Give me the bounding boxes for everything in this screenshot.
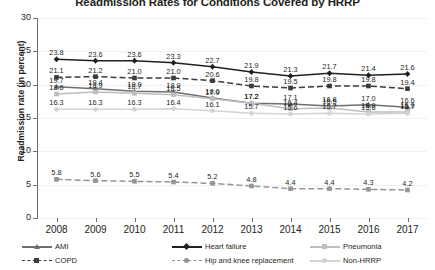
data-label: 18.6 <box>39 83 75 92</box>
data-point-marker <box>171 180 176 185</box>
x-tick-label: 2013 <box>230 224 274 235</box>
x-tick-mark <box>291 218 292 222</box>
x-tick-label: 2010 <box>113 224 157 235</box>
data-label: 16.1 <box>195 100 231 109</box>
data-point-marker <box>54 177 59 182</box>
data-point-marker <box>249 84 254 89</box>
data-label: 21.2 <box>78 66 114 75</box>
y-tick-label: 0 <box>9 212 31 222</box>
y-tick-label: 25 <box>9 45 31 55</box>
legend-item-pneumonia[interactable]: Pneumonia <box>310 241 381 252</box>
x-tick-label: 2011 <box>152 224 196 235</box>
data-point-marker <box>288 112 293 117</box>
legend-item-copd[interactable]: COPD <box>22 255 77 266</box>
data-label: 4.2 <box>390 179 426 188</box>
data-label: 23.8 <box>39 48 75 57</box>
data-point-marker <box>405 111 410 116</box>
data-point-marker <box>249 111 254 116</box>
chart-figure: Readmission Rates for Conditions Covered… <box>0 0 435 270</box>
data-point-marker <box>210 78 215 83</box>
data-label: 15.6 <box>351 103 387 112</box>
legend-item-heart-failure[interactable]: Heart failure <box>172 241 246 252</box>
data-label: 16.3 <box>78 98 114 107</box>
data-label: 4.3 <box>351 178 387 187</box>
data-label: 4.8 <box>234 175 270 184</box>
data-label: 16.3 <box>39 98 75 107</box>
data-label: 5.4 <box>156 171 192 180</box>
y-tick-mark <box>33 218 38 219</box>
legend-label: COPD <box>55 256 77 265</box>
legend-item-hip-and-knee-replacement[interactable]: Hip and knee replacement <box>172 255 294 266</box>
legend-label: Non-HRRP <box>343 256 381 265</box>
data-point-marker <box>93 178 98 183</box>
y-tick-label: 15 <box>9 112 31 122</box>
data-point-marker <box>249 184 254 189</box>
x-tick-mark <box>57 218 58 222</box>
y-tick-label: 10 <box>9 145 31 155</box>
data-label: 16.3 <box>117 98 153 107</box>
data-label: 5.2 <box>195 172 231 181</box>
data-label: 21.3 <box>273 65 309 74</box>
data-label: 18.7 <box>117 82 153 91</box>
data-label: 21.0 <box>156 67 192 76</box>
x-tick-label: 2012 <box>191 224 235 235</box>
data-label: 19.8 <box>234 75 270 84</box>
data-label: 4.4 <box>312 178 348 187</box>
data-label: 15.6 <box>273 103 309 112</box>
x-tick-mark <box>174 218 175 222</box>
y-tick-label: 5 <box>9 179 31 189</box>
legend-label: AMI <box>55 242 69 251</box>
data-point-marker <box>54 92 59 97</box>
x-tick-mark <box>96 218 97 222</box>
data-point-marker <box>93 90 98 95</box>
legend-label: Heart failure <box>205 242 246 251</box>
data-label: 18.5 <box>156 84 192 93</box>
x-tick-mark <box>252 218 253 222</box>
x-tick-label: 2009 <box>74 224 118 235</box>
legend-label: Hip and knee replacement <box>205 256 294 265</box>
data-label: 4.4 <box>273 178 309 187</box>
data-point-marker <box>288 86 293 91</box>
legend-swatch-icon <box>310 256 340 265</box>
y-tick-label: 20 <box>9 79 31 89</box>
x-tick-mark <box>369 218 370 222</box>
data-point-marker <box>132 179 137 184</box>
legend-label: Pneumonia <box>343 242 381 251</box>
data-point-marker <box>366 84 371 89</box>
data-point-marker <box>93 107 98 112</box>
data-point-marker <box>405 188 410 193</box>
data-label: 5.6 <box>78 170 114 179</box>
data-point-marker <box>405 86 410 91</box>
data-point-marker <box>366 187 371 192</box>
data-point-marker <box>171 106 176 111</box>
series-lines <box>37 18 427 218</box>
data-point-marker <box>171 92 176 97</box>
x-tick-label: 2016 <box>347 224 391 235</box>
data-point-marker <box>171 76 176 81</box>
x-tick-mark <box>135 218 136 222</box>
legend-item-non-hrrp[interactable]: Non-HRRP <box>310 255 381 266</box>
y-axis-label: Readmission rate (in percent) <box>16 16 26 186</box>
y-tick-label: 30 <box>9 12 31 22</box>
data-label: 15.7 <box>234 102 270 111</box>
data-point-marker <box>327 186 332 191</box>
data-point-marker <box>54 107 59 112</box>
data-label: 15.7 <box>390 102 426 111</box>
data-label: 16.4 <box>156 98 192 107</box>
data-label: 23.6 <box>117 50 153 59</box>
data-point-marker <box>327 111 332 116</box>
data-label: 21.1 <box>39 66 75 75</box>
data-point-marker <box>210 181 215 186</box>
data-point-marker <box>327 84 332 89</box>
data-point-marker <box>132 91 137 96</box>
data-label: 17.9 <box>195 88 231 97</box>
data-point-marker <box>132 107 137 112</box>
data-label: 21.7 <box>312 62 348 71</box>
x-tick-label: 2017 <box>386 224 430 235</box>
legend-item-ami[interactable]: AMI <box>22 241 69 252</box>
plot-area: 051015202530 200820092010201120122013201… <box>37 18 427 218</box>
x-tick-mark <box>408 218 409 222</box>
data-label: 21.0 <box>117 67 153 76</box>
data-label: 19.5 <box>273 77 309 86</box>
legend-swatch-icon <box>172 256 202 265</box>
